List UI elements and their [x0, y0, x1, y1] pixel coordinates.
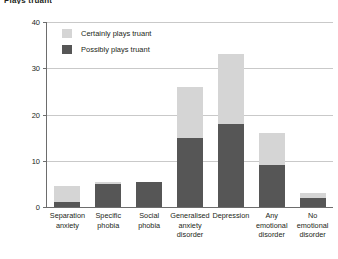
bar-segment-possibly[interactable] [218, 124, 244, 207]
y-tick-label: 20 [18, 110, 40, 119]
bar-chart: Percentage 010203040 Certainly plays tru… [0, 0, 338, 259]
bar-segment-certainly[interactable] [218, 54, 244, 123]
y-tick-label: 0 [18, 203, 40, 212]
x-tick-label-line: emotional [250, 221, 294, 231]
x-tick-label-line: Social [127, 211, 171, 221]
bar-segment-certainly[interactable] [177, 87, 203, 138]
x-tick-label: Socialphobia [127, 211, 171, 230]
x-tick-label-line: phobia [127, 221, 171, 231]
x-axis-labels: SeparationanxietySpecificphobiaSocialpho… [47, 211, 333, 257]
y-tick-mark [43, 161, 46, 162]
x-tick-label-line: Separation [45, 211, 89, 221]
x-tick-label: Noemotionaldisorder [291, 211, 335, 240]
x-tick-label: Separationanxiety [45, 211, 89, 230]
bar-segment-possibly[interactable] [54, 202, 80, 207]
x-tick-label-line: No [291, 211, 335, 221]
bar-0[interactable] [54, 186, 80, 207]
x-tick-label-line: disorder [168, 230, 212, 240]
x-tick-label-line: Generalised [168, 211, 212, 221]
x-tick-label-line: phobia [86, 221, 130, 231]
x-tick-label: Specificphobia [86, 211, 130, 230]
bar-segment-certainly[interactable] [54, 186, 80, 202]
bar-2[interactable] [136, 182, 162, 207]
legend-label-certainly: Certainly plays truant [81, 29, 151, 38]
y-tick-label: 10 [18, 156, 40, 165]
y-tick-label: 40 [18, 18, 40, 27]
y-tick-mark [43, 22, 46, 23]
x-tick-label-line: anxiety [45, 221, 89, 231]
legend-item-possibly: Possibly plays truant [62, 45, 151, 54]
x-tick-label: Depression [209, 211, 253, 221]
y-tick-mark [43, 207, 46, 208]
x-tick-label: Anyemotionaldisorder [250, 211, 294, 240]
x-tick-label-line: disorder [291, 230, 335, 240]
x-tick-label-line: emotional [291, 221, 335, 231]
legend-swatch-possibly [62, 45, 72, 54]
x-tick-label-line: Depression [209, 211, 253, 221]
bar-segment-possibly[interactable] [177, 138, 203, 207]
bar-5[interactable] [259, 133, 285, 207]
bar-segment-possibly[interactable] [95, 184, 121, 207]
x-axis-line [46, 207, 333, 208]
bar-6[interactable] [300, 193, 326, 207]
y-tick-mark [43, 115, 46, 116]
legend-label-possibly: Possibly plays truant [81, 45, 150, 54]
bar-4[interactable] [218, 54, 244, 207]
bar-segment-possibly[interactable] [136, 182, 162, 207]
y-tick-mark [43, 68, 46, 69]
x-tick-label-line: Any [250, 211, 294, 221]
y-tick-label: 30 [18, 64, 40, 73]
bar-3[interactable] [177, 87, 203, 207]
x-tick-label-line: Specific [86, 211, 130, 221]
bar-segment-possibly[interactable] [300, 198, 326, 207]
x-tick-label-line: disorder [250, 230, 294, 240]
x-tick-label-line: anxiety [168, 221, 212, 231]
chart-legend: Certainly plays truant Possibly plays tr… [62, 29, 151, 61]
bar-segment-possibly[interactable] [259, 165, 285, 207]
bar-1[interactable] [95, 182, 121, 207]
bar-segment-certainly[interactable] [259, 133, 285, 165]
x-tick-label: Generalisedanxietydisorder [168, 211, 212, 240]
legend-swatch-certainly [62, 29, 72, 38]
legend-item-certainly: Certainly plays truant [62, 29, 151, 38]
